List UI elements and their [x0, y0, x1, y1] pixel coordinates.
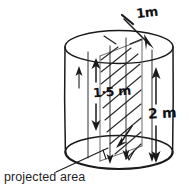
flow-tick — [104, 36, 116, 44]
hatch-line — [101, 47, 118, 60]
label-inner-height: 1·5 m — [93, 85, 132, 100]
plane-top-edge — [100, 40, 142, 56]
cylinder-top-ellipse — [65, 31, 173, 64]
hatch-line — [107, 104, 141, 132]
flow-arrow-field — [76, 36, 156, 164]
hatch-line — [110, 118, 141, 144]
label-total-height: 2 m — [148, 105, 177, 120]
cylinder-left-wall — [65, 47, 66, 152]
flow-arrow-head — [144, 34, 154, 50]
cylinder-right-wall — [173, 47, 174, 152]
hatch-line — [101, 54, 138, 84]
cylinder-outline — [65, 31, 174, 170]
caption-projected-area: projected area — [4, 170, 85, 184]
hatch-line — [101, 48, 131, 72]
projected-area-hit-head — [116, 137, 127, 148]
flow-vee — [103, 150, 106, 159]
flow-tick — [130, 39, 142, 44]
figure-container: 1m 1·5 m 2 m projected area — [0, 0, 189, 193]
label-top-length: 1m — [135, 5, 158, 21]
